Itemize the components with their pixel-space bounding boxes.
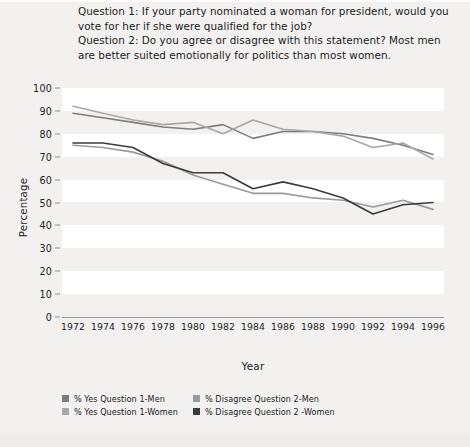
y-tick-label: 50: [39, 197, 52, 208]
x-axis-line: [62, 317, 444, 318]
y-tick-mark: [55, 88, 60, 89]
line-chart: 1009080706050403020100 Percentage 197219…: [0, 78, 470, 338]
legend-label: % Disagree Question 2 -Women: [205, 407, 335, 417]
page-bottom-edge: [0, 433, 470, 447]
legend-item[interactable]: % Yes Question 1-Men: [62, 394, 193, 404]
series-line: [73, 143, 433, 214]
y-tick-label: 10: [39, 289, 52, 300]
x-tick-label: 1992: [361, 321, 385, 332]
x-tick-label: 1990: [331, 321, 355, 332]
x-tick-label: 1986: [271, 321, 295, 332]
legend-swatch-icon: [62, 408, 69, 415]
x-axis-ticks: 1972197419761978198019821984198619881990…: [0, 321, 470, 337]
legend-item[interactable]: % Yes Question 1-Women: [62, 407, 193, 417]
y-tick-mark: [55, 317, 60, 318]
y-axis-title: Percentage: [18, 163, 29, 253]
y-tick-label: 100: [33, 83, 52, 94]
y-tick-label: 60: [39, 174, 52, 185]
y-tick-mark: [55, 294, 60, 295]
x-tick-label: 1974: [91, 321, 115, 332]
x-tick-label: 1996: [421, 321, 445, 332]
legend-label: % Disagree Question 2-Men: [205, 394, 319, 404]
x-tick-label: 1976: [121, 321, 145, 332]
y-tick-mark: [55, 225, 60, 226]
question-2-text: Question 2: Do you agree or disagree wit…: [78, 33, 450, 62]
y-tick-mark: [55, 179, 60, 180]
chart-page: Question 1: If your party nominated a wo…: [0, 0, 470, 447]
x-tick-label: 1978: [151, 321, 175, 332]
x-tick-label: 1972: [61, 321, 85, 332]
y-tick-label: 80: [39, 128, 52, 139]
series-line: [73, 145, 433, 209]
legend-label: % Yes Question 1-Women: [74, 407, 178, 417]
series-lines: [62, 88, 444, 317]
x-tick-label: 1980: [181, 321, 205, 332]
y-tick-mark: [55, 110, 60, 111]
y-tick-label: 90: [39, 105, 52, 116]
y-tick-mark: [55, 133, 60, 134]
y-tick-label: 30: [39, 243, 52, 254]
y-tick-mark: [55, 156, 60, 157]
x-tick-label: 1994: [391, 321, 415, 332]
legend-item[interactable]: % Disagree Question 2 -Women: [193, 407, 362, 417]
y-tick-label: 70: [39, 151, 52, 162]
x-tick-label: 1982: [211, 321, 235, 332]
legend-swatch-icon: [62, 395, 69, 402]
y-tick-mark: [55, 248, 60, 249]
legend-swatch-icon: [193, 395, 200, 402]
y-tick-label: 20: [39, 266, 52, 277]
y-axis-ticks: 1009080706050403020100: [0, 88, 58, 317]
x-axis-title: Year: [62, 360, 444, 372]
x-tick-label: 1988: [301, 321, 325, 332]
y-tick-label: 40: [39, 220, 52, 231]
question-1-text: Question 1: If your party nominated a wo…: [78, 4, 450, 33]
legend-label: % Yes Question 1-Men: [74, 394, 165, 404]
y-tick-mark: [55, 202, 60, 203]
page-top-edge: [0, 0, 470, 2]
y-tick-mark: [55, 271, 60, 272]
x-tick-label: 1984: [241, 321, 265, 332]
question-header: Question 1: If your party nominated a wo…: [78, 4, 450, 62]
chart-legend: % Yes Question 1-Men% Disagree Question …: [62, 392, 362, 418]
legend-swatch-icon: [193, 408, 200, 415]
plot-area: [62, 88, 444, 317]
legend-item[interactable]: % Disagree Question 2-Men: [193, 394, 362, 404]
